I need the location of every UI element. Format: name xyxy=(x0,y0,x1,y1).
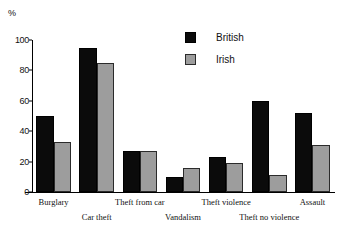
x-axis-category-label: Theft violence xyxy=(201,197,250,207)
x-axis-category-label: Assault xyxy=(300,197,326,207)
x-axis-category-label: Theft no violence xyxy=(239,212,299,222)
bar-british xyxy=(123,151,140,192)
bar-group xyxy=(79,40,114,192)
bar-irish xyxy=(226,163,243,192)
bar-chart: % 020406080100 BurglaryCar theftTheft fr… xyxy=(0,0,340,240)
bar-group xyxy=(295,40,330,192)
bar-british xyxy=(79,48,96,192)
legend-label: Irish xyxy=(216,54,235,65)
bar-british xyxy=(295,113,312,192)
bar-irish xyxy=(97,63,114,192)
x-axis-category-label: Theft from car xyxy=(115,197,165,207)
bar-irish xyxy=(140,151,157,192)
bars-layer xyxy=(32,40,334,192)
legend-entry: British xyxy=(185,26,244,48)
bar-irish xyxy=(269,175,286,192)
bar-group xyxy=(252,40,287,192)
legend-swatch-british xyxy=(185,32,196,43)
bar-irish xyxy=(312,145,329,192)
bar-group xyxy=(36,40,71,192)
bar-group xyxy=(123,40,158,192)
plot-area: 020406080100 xyxy=(32,40,334,192)
bar-irish xyxy=(54,142,71,192)
legend-swatch-irish xyxy=(185,54,196,65)
legend-entry: Irish xyxy=(185,48,244,70)
x-axis-category-label: Burglary xyxy=(39,197,69,207)
x-axis-baseline xyxy=(25,192,335,193)
bar-british xyxy=(252,101,269,192)
bar-british xyxy=(209,157,226,192)
bar-british xyxy=(166,177,183,192)
y-axis-unit-label: % xyxy=(8,8,16,18)
legend: BritishIrish xyxy=(185,26,244,70)
bar-british xyxy=(36,116,53,192)
x-axis-category-label: Vandalism xyxy=(165,212,201,222)
bar-irish xyxy=(183,168,200,192)
x-axis-category-label: Car theft xyxy=(82,212,112,222)
legend-label: British xyxy=(216,32,244,43)
